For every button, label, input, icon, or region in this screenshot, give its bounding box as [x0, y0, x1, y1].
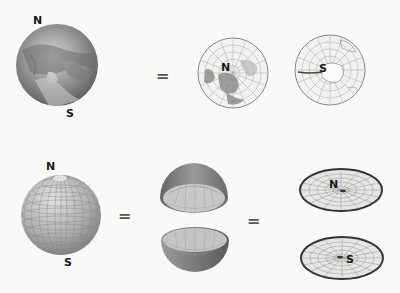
- north-polar-label: N: [221, 61, 230, 74]
- south-polar-map: [295, 35, 365, 105]
- earth-north-label: N: [33, 14, 42, 27]
- equals-sign-1: =: [156, 66, 169, 85]
- south-polar-label: S: [319, 62, 327, 75]
- equals-sign-2: =: [118, 206, 131, 225]
- earth-south-label: S: [66, 107, 74, 120]
- disc-north-label: N: [329, 178, 338, 191]
- equals-sign-3: =: [247, 211, 260, 230]
- south-flat-disc: [301, 237, 383, 279]
- north-flat-disc: [300, 169, 382, 211]
- grid-sphere: [21, 173, 101, 256]
- disc-south-label: S: [346, 253, 354, 266]
- north-polar-map: [198, 38, 268, 108]
- southern-hemisphere-bowl: [161, 227, 229, 272]
- sphere-south-label: S: [64, 256, 72, 269]
- earth-globe: [16, 24, 98, 108]
- diagram-canvas: N S = N: [0, 0, 400, 293]
- sphere-north-label: N: [46, 160, 55, 173]
- northern-hemisphere-dome: [160, 163, 228, 213]
